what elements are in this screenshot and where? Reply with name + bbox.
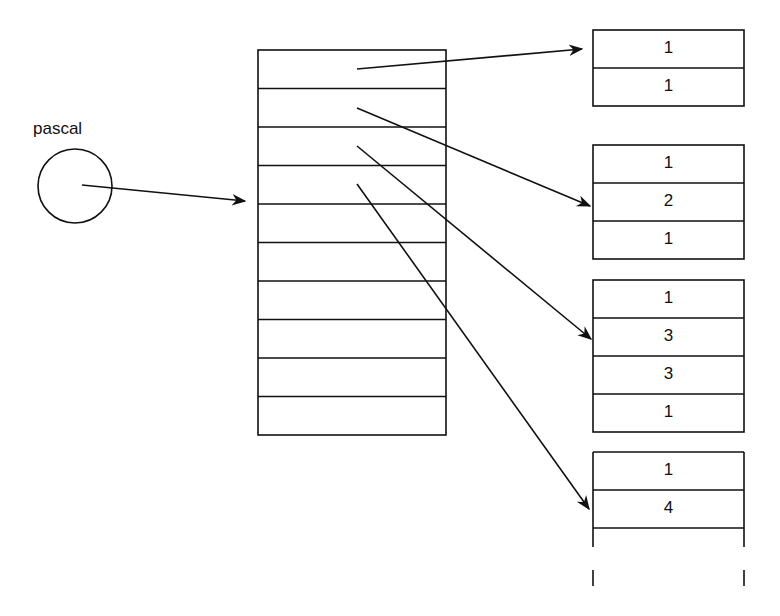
row-1-cell-2: 1 (593, 229, 744, 249)
row-2-cell-1: 3 (593, 326, 744, 346)
row-1-cell-1: 2 (593, 191, 744, 211)
pascal-variable-circle (38, 149, 112, 223)
row-pointer-arrow-1 (357, 108, 590, 206)
pascal-variable-label: pascal (33, 119, 82, 139)
row-pointer-arrow-3 (357, 184, 589, 509)
outer-array (258, 50, 446, 435)
pascal-pointer-arrow (82, 185, 245, 201)
row-pointer-arrow-0 (357, 49, 582, 69)
row-0-cell-0: 1 (593, 38, 744, 58)
row-2-cell-0: 1 (593, 288, 744, 308)
row-3-cell-1: 4 (593, 498, 744, 518)
row-2-cell-3: 1 (593, 402, 744, 422)
row-0-cell-1: 1 (593, 76, 744, 96)
row-2-cell-2: 3 (593, 364, 744, 384)
row-1-cell-0: 1 (593, 153, 744, 173)
row-3-cell-0: 1 (593, 460, 744, 480)
